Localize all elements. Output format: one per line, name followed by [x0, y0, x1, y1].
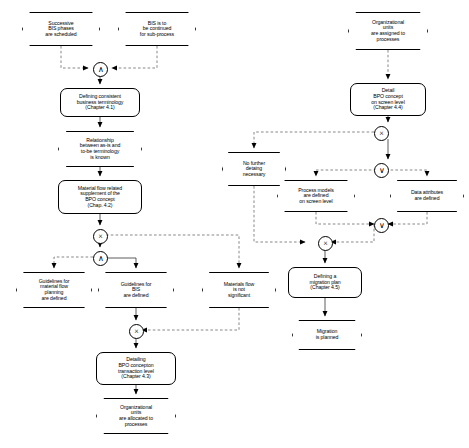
or-symbol: ∨ — [379, 221, 385, 229]
connector-or-screen-level-split[interactable]: ∨ — [374, 163, 389, 178]
connector-xor-bis-join[interactable]: × — [129, 324, 144, 339]
event-label: Process models are defined on screen lev… — [296, 188, 336, 205]
and-symbol: ∧ — [98, 254, 104, 262]
event-data-attributes-defined[interactable]: Data attributes are defined — [390, 180, 464, 212]
connector-or-screen-level-join[interactable]: ∨ — [374, 218, 389, 233]
event-guidelines-material-flow-planning-defined[interactable]: Guidelines for material flow planning ar… — [16, 272, 92, 308]
event-label: No further detaing necessary — [241, 161, 268, 178]
function-defining-migration-plan[interactable]: Defining a migration plan (Chapter 4.5) — [288, 267, 362, 298]
function-defining-consistent-business-terminology[interactable]: Defining consistent business terminology… — [60, 88, 140, 117]
event-label: Relationship between as-is and to-be ter… — [78, 138, 122, 160]
event-label: Guidelines for BIS are defined — [119, 282, 154, 299]
function-material-flow-supplement-bpo-concept[interactable]: Material flow related supplement of the … — [58, 180, 142, 214]
event-materials-flow-not-significant[interactable]: Materials flow is not significant — [202, 272, 276, 308]
connector-xor-material-flow-split[interactable]: × — [93, 229, 108, 244]
event-no-further-detailing-necessary[interactable]: No further detaing necessary — [222, 152, 286, 186]
and-symbol: ∧ — [98, 65, 104, 73]
event-bis-to-be-continued[interactable]: BIS is to be continued for sub-process — [118, 12, 196, 46]
event-org-units-assigned-to-processes[interactable]: Organizational units are assigned to pro… — [348, 12, 428, 50]
xor-symbol: × — [134, 327, 139, 335]
event-guidelines-bis-defined[interactable]: Guidelines for BIS are defined — [98, 272, 174, 308]
function-detailing-bpo-conception-transaction-level[interactable]: Detailing BPO concepton transaction leve… — [96, 352, 176, 385]
event-label: Organizational units are allocated to pr… — [117, 405, 155, 427]
event-label: Data attributes are defined — [409, 190, 445, 201]
xor-symbol: × — [379, 129, 384, 137]
or-symbol: ∨ — [379, 166, 385, 174]
event-terminology-relationship-known[interactable]: Relationship between as-is and to-be ter… — [58, 131, 142, 167]
event-label: Migration is planned — [314, 329, 341, 340]
event-successive-bis-phases-scheduled[interactable]: Successive BIS phases are scheduled — [22, 12, 100, 46]
event-org-units-allocated-to-processes[interactable]: Organizational units are allocated to pr… — [96, 398, 176, 434]
xor-symbol: × — [323, 239, 328, 247]
connector-xor-migration-join[interactable]: × — [318, 236, 333, 251]
function-label: Defining consistent business terminology… — [75, 94, 126, 111]
function-detail-bpo-concept-screen-level[interactable]: Detail BPO concept on screen level (Chap… — [350, 83, 426, 116]
function-label: Detailing BPO concepton transaction leve… — [116, 357, 156, 379]
event-label: Guidelines for material flow planning ar… — [37, 279, 72, 301]
xor-symbol: × — [98, 232, 103, 240]
function-label: Defining a migration plan (Chapter 4.5) — [307, 274, 342, 291]
connector-and-start-join[interactable]: ∧ — [93, 62, 108, 77]
event-migration-is-planned[interactable]: Migration is planned — [292, 320, 362, 350]
function-label: Detail BPO concept on screen level (Chap… — [369, 88, 406, 110]
event-label: Materials flow is not significant — [222, 282, 256, 299]
event-process-models-defined-screen-level[interactable]: Process models are defined on screen lev… — [277, 180, 355, 212]
function-label: Material flow related supplement of the … — [76, 186, 124, 208]
connector-and-guidelines-split[interactable]: ∧ — [93, 251, 108, 266]
connector-xor-screen-level-split[interactable]: × — [374, 126, 389, 141]
event-label: Organizational units are assigned to pro… — [369, 20, 407, 42]
epc-diagram-canvas: Successive BIS phases are scheduled BIS … — [0, 0, 469, 448]
event-label: BIS is to be continued for sub-process — [138, 21, 176, 38]
event-label: Successive BIS phases are scheduled — [43, 21, 78, 38]
diagram-edges-layer — [0, 0, 469, 448]
